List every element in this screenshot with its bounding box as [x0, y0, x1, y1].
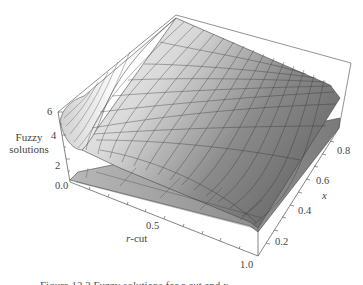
z-tick-2: 2 [55, 160, 60, 171]
figure-caption: Figure 12.2 Fuzzy solutions for r-cut an… [40, 277, 229, 285]
y-tick-0.8: 0.8 [337, 145, 350, 156]
z-tick-4: 4 [51, 130, 56, 141]
x-axis-title: r-cut [126, 232, 147, 244]
z-tick-6: 6 [47, 106, 52, 117]
y-tick-0.2: 0.2 [275, 236, 288, 247]
y-axis-title: x [322, 189, 327, 201]
z-axis-title-line2: solutions [8, 143, 50, 155]
y-tick-0.4: 0.4 [298, 205, 311, 216]
z-axis-title-line1: Fuzzy [8, 131, 50, 143]
x-tick-0.0: 0.0 [55, 180, 68, 191]
x-tick-1.0: 1.0 [240, 259, 253, 270]
surface-plot [0, 0, 363, 285]
z-axis-title: Fuzzy solutions [8, 131, 50, 155]
y-tick-0.6: 0.6 [316, 175, 329, 186]
x-tick-0.5: 0.5 [146, 220, 159, 231]
x-axis-title-rest: -cut [130, 232, 147, 244]
